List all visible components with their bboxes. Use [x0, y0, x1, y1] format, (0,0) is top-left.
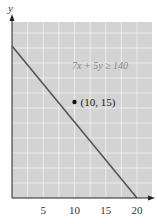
- y-axis-label: y: [7, 2, 13, 14]
- shaded-region: [12, 22, 152, 198]
- x-tick-label: 5: [41, 204, 47, 216]
- inequality-label: 7x + 5y ≥ 140: [72, 60, 128, 71]
- x-tick-labels: 5101520: [41, 204, 144, 216]
- point-label: (10, 15): [81, 96, 116, 109]
- data-point: [72, 100, 76, 104]
- x-tick-label: 20: [132, 204, 144, 216]
- chart: y 5101520 (10, 15) 7x + 5y ≥ 140: [0, 0, 157, 224]
- x-tick-label: 15: [100, 204, 112, 216]
- x-tick-label: 10: [69, 204, 81, 216]
- y-axis-arrow-icon: [10, 14, 15, 21]
